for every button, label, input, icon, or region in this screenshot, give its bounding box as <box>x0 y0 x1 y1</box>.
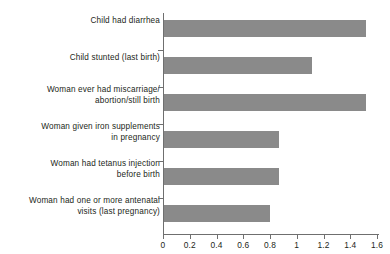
bar-woman-given-iron-supplements <box>164 131 279 148</box>
bar-child-had-diarrhea <box>164 20 366 37</box>
x-axis-tick <box>217 235 218 239</box>
x-axis-tick-label: 1.4 <box>338 240 362 250</box>
x-axis-line <box>163 234 379 235</box>
category-label-woman-had-tetanus-injection: Woman had tetanus injection before birth <box>0 159 164 180</box>
x-axis-tick-label: 1.6 <box>365 240 389 250</box>
x-axis-tick-label: 0.4 <box>205 240 229 250</box>
bar-woman-had-antenatal-visits <box>164 205 270 222</box>
x-axis-tick <box>190 235 191 239</box>
x-axis-tick <box>270 235 271 239</box>
x-axis-tick-label: 0.2 <box>178 240 202 250</box>
x-axis-tick-label: 1 <box>285 240 309 250</box>
x-axis-tick-label: 0.8 <box>258 240 282 250</box>
horizontal-bar-chart: Child had diarrhea Child stunted (last b… <box>0 0 390 254</box>
x-axis-tick <box>243 235 244 239</box>
x-axis-tick-label: 0 <box>151 240 175 250</box>
bar-child-stunted-last-birth <box>164 57 312 74</box>
bar-woman-ever-had-miscarriage <box>164 94 366 111</box>
bar-woman-had-tetanus-injection <box>164 168 279 185</box>
category-label-woman-had-one-or-more-antenatal-visits: Woman had one or more antenatal visits (… <box>0 196 164 217</box>
category-label-woman-given-iron-supplements: Woman given iron supplements in pregnanc… <box>0 122 164 143</box>
x-axis-tick-label: 0.6 <box>231 240 255 250</box>
x-axis-tick <box>163 235 164 239</box>
x-axis-tick-label: 1.2 <box>312 240 336 250</box>
category-label-woman-ever-had-miscarriage: Woman ever had miscarriage/ abortion/sti… <box>0 85 164 106</box>
plot-area <box>164 13 378 233</box>
category-label-child-stunted-last-birth: Child stunted (last birth) <box>0 53 164 64</box>
x-axis-tick <box>324 235 325 239</box>
x-axis-tick <box>350 235 351 239</box>
category-label-child-had-diarrhea: Child had diarrhea <box>0 16 164 27</box>
x-axis-tick <box>297 235 298 239</box>
x-axis-tick <box>377 235 378 239</box>
